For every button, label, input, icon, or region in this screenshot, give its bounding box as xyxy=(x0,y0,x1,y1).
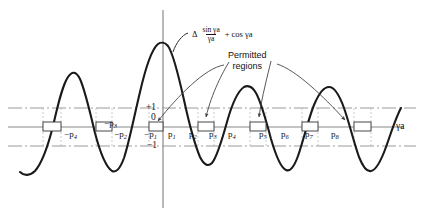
p4-sub: 4 xyxy=(233,133,236,140)
formula-numerator: sin γa xyxy=(200,26,221,34)
formula-fraction: sin γa γa xyxy=(200,26,221,43)
permitted-band xyxy=(354,122,371,131)
formula-denominator: γa xyxy=(206,34,217,43)
neg-p1-sub: 1 xyxy=(154,133,157,140)
point-label-p1: p1 xyxy=(168,130,176,141)
point-label-p8: p8 xyxy=(331,130,339,141)
neg-p2-text: −p xyxy=(114,129,124,139)
permitted-line-2: regions xyxy=(228,61,267,72)
point-label-p2: p2 xyxy=(189,130,197,141)
x-axis-label: γa xyxy=(396,122,405,132)
neg-p3-text: −p xyxy=(104,118,114,128)
point-label-neg-p2: −p2 xyxy=(114,130,127,141)
point-label-neg-p3: −p3 xyxy=(104,119,117,130)
p3-sub: 3 xyxy=(214,133,217,140)
point-label-p5: p5 xyxy=(259,130,267,141)
y-tick-zero: 0 xyxy=(151,112,156,122)
p6-sub: 6 xyxy=(286,133,289,140)
formula-annotation: Δ sin γa γa + cos γa xyxy=(192,26,253,43)
y-tick-minus1: −1 xyxy=(147,140,157,150)
point-label-neg-p4: −p4 xyxy=(64,130,77,141)
point-label-p3: p3 xyxy=(209,130,217,141)
p1-sub: 1 xyxy=(173,133,176,140)
kronig-penney-figure: Δ sin γa γa + cos γa Permitted regions +… xyxy=(0,0,424,219)
point-label-p6: p6 xyxy=(281,130,289,141)
formula-plus: + xyxy=(225,29,230,39)
neg-p4-text: −p xyxy=(64,129,74,139)
neg-p4-sub: 4 xyxy=(74,133,77,140)
p5-sub: 5 xyxy=(264,133,267,140)
point-label-p7: p7 xyxy=(305,130,313,141)
formula-delta: Δ xyxy=(192,29,197,39)
p8-sub: 8 xyxy=(336,133,339,140)
point-label-p4: p4 xyxy=(228,130,236,141)
permitted-band xyxy=(43,122,61,131)
y-tick-plus1: +1 xyxy=(146,102,156,112)
p2-sub: 2 xyxy=(194,133,197,140)
permitted-regions-annotation: Permitted regions xyxy=(228,50,267,72)
permitted-line-1: Permitted xyxy=(228,50,267,61)
p7-sub: 7 xyxy=(310,133,313,140)
neg-p2-sub: 2 xyxy=(124,133,127,140)
formula-cos-term: cos γa xyxy=(232,29,253,39)
neg-p1-text: −p xyxy=(144,129,154,139)
neg-p3-sub: 3 xyxy=(114,122,117,129)
formula-leader-line xyxy=(173,33,188,52)
dispersion-curve xyxy=(20,43,401,175)
point-label-neg-p1: −p1 xyxy=(144,130,157,141)
